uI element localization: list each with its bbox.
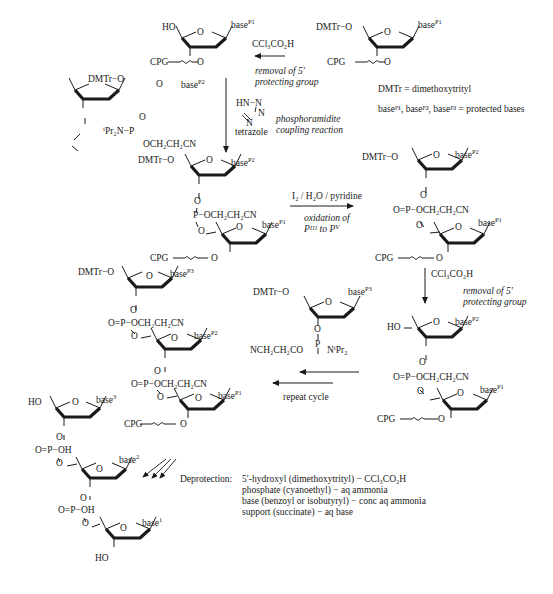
step3-reagent: I₂ / H₂O / pyridine <box>292 191 362 202</box>
label-cpg: CPG <box>150 57 168 68</box>
label-o: O <box>438 414 445 425</box>
label-base-p2: baseP2 <box>231 158 255 169</box>
label-o: O <box>198 226 205 237</box>
label-base-p1: baseP1 <box>418 20 442 31</box>
label-base-p2: baseP2 <box>455 317 479 328</box>
label-o: O <box>130 305 137 316</box>
label-base-p1: baseP1 <box>480 385 504 396</box>
label-o-eq-p-oh: O=P−OH <box>35 445 72 456</box>
label-o: O <box>419 357 426 368</box>
label-cpg: CPG <box>327 57 345 68</box>
label-ho: HO <box>28 397 42 408</box>
label-base-2: base2 <box>119 455 139 466</box>
step5-label: repeat cycle <box>283 392 329 403</box>
legend-bases: baseᴾ¹, baseᴾ², baseᴾ³ = protected bases <box>378 104 525 115</box>
label-base-p3: baseP3 <box>348 287 372 298</box>
label-o: O <box>197 57 204 68</box>
label-cpg: CPG <box>377 414 395 425</box>
step2-activator-name: tetrazole <box>235 127 268 138</box>
label-ho: HO <box>162 22 176 33</box>
ring-oxygen: O <box>433 150 440 161</box>
ring-oxygen: O <box>206 155 213 166</box>
label-o: O <box>56 432 63 443</box>
step4-description-line1: removal of 5′ <box>463 286 513 297</box>
legend-dmtr: DMTr = dimethoxytrityl <box>378 84 471 95</box>
label-base-3: base3 <box>96 395 116 406</box>
step1-reagent: CCl₃CO₂H <box>252 39 294 50</box>
label-dmtr-o: DMTr−O <box>78 267 114 278</box>
label-o: O <box>139 112 146 123</box>
ring-oxygen: O <box>455 222 462 233</box>
ring-oxygen: O <box>96 464 103 475</box>
ring-oxygen: O <box>325 297 332 308</box>
label-cpg: CPG <box>124 419 142 430</box>
label-base-p1: baseP1 <box>478 218 502 229</box>
label-o: O <box>80 493 87 504</box>
label-o-eq-p-cyanoethyl: O=P−OCH₂CH₂CN <box>393 372 469 383</box>
label-ncch2ch2co: NCH₂CH₂CO <box>250 345 303 356</box>
label-o: O <box>417 386 424 397</box>
label-base-p1: baseP1 <box>231 20 255 31</box>
step2-description-line1: phosphoramidite <box>276 114 340 125</box>
label-dmtr-o: DMTr−O <box>253 287 289 298</box>
label-ho: HO <box>387 322 401 333</box>
deprotection-line: phosphate (cyanoethyl) − aq ammonia <box>242 485 426 496</box>
ring-oxygen: O <box>72 397 79 408</box>
step2-description-line2: coupling reaction <box>276 125 343 136</box>
step1-description-line1: removal of 5′ <box>255 66 305 77</box>
step4-reagent: CCl₃CO₂H <box>431 269 473 280</box>
label-base-p3: baseP3 <box>170 269 194 280</box>
label-o: O <box>314 324 321 335</box>
label-o: O <box>157 392 164 403</box>
ring-oxygen: O <box>120 523 127 534</box>
deprotection-list: 5′-hydroxyl (dimethoxytrityl) − CCl₃CO₂H… <box>242 474 426 518</box>
label-o: O <box>82 518 89 529</box>
label-o: O <box>131 331 138 342</box>
label-o: O <box>416 220 423 231</box>
label-p-cyanoethyl: P−OCH₂CH₂CN <box>193 210 257 221</box>
label-o-eq-p-cyanoethyl: O=P−OCH₂CH₂CN <box>393 205 469 216</box>
ring-oxygen: O <box>236 222 243 233</box>
label-dmtr-o: DMTr−O <box>88 74 124 85</box>
label-base-p1: baseP1 <box>262 220 286 231</box>
label-cyanoethyl: OCH₂CH₂CN <box>143 139 196 150</box>
ring-oxygen: O <box>197 27 204 38</box>
label-o: O <box>180 419 187 430</box>
ring-oxygen: O <box>146 271 153 282</box>
label-base-1: base1 <box>142 518 162 529</box>
label-o: O <box>384 57 391 68</box>
label-o: O <box>56 458 63 469</box>
label-base-p2: baseP2 <box>181 80 205 91</box>
label-o: O <box>420 190 427 201</box>
ring-top-right <box>363 26 419 56</box>
step3-description-line2: Pᴵᴵᴵ to Pⱽ <box>304 224 340 235</box>
step3-description-line1: oxidation of <box>304 213 350 224</box>
ring-top-left <box>176 26 232 56</box>
label-o: O <box>194 196 201 207</box>
step4-description-line2: protecting group <box>463 297 526 308</box>
label-cpg: CPG <box>150 253 168 264</box>
tetrazole-n: N <box>258 108 265 119</box>
label-dmtr-o: DMTr−O <box>138 155 174 166</box>
ring-oxygen: O <box>171 333 178 344</box>
deprotection-heading: Deprotection: <box>180 474 232 485</box>
label-base-p1: baseP1 <box>218 391 242 402</box>
label-o-eq-p-cyanoethyl: O=P−OCH₂CH₂CN <box>108 318 184 329</box>
label-ho: HO <box>95 553 109 564</box>
label-o: O <box>211 253 218 264</box>
label-ipr2n-p: ⁱPr₂N−P <box>103 126 134 137</box>
ring-oxygen: O <box>433 317 440 328</box>
label-dmtr-o: DMTr−O <box>316 22 352 33</box>
label-o: O <box>154 366 161 377</box>
ring-oxygen: O <box>195 393 202 404</box>
deprotection-line: base (benzoyl or isobutyryl) − conc aq a… <box>242 496 426 507</box>
deprotection-line: 5′-hydroxyl (dimethoxytrityl) − CCl₃CO₂H <box>242 474 426 485</box>
label-dmtr-o: DMTr−O <box>362 152 398 163</box>
ring-oxygen: O <box>384 27 391 38</box>
ring-amidite-p3 <box>304 296 360 326</box>
label-o-eq-p-cyanoethyl: O=P−OCH₂CH₂CN <box>131 379 207 390</box>
step1-description-line2: protecting group <box>255 77 318 88</box>
label-p: P <box>315 339 320 350</box>
deprotection-line: support (succinate) − aq base <box>242 507 426 518</box>
label-o-eq-p-oh: O=P−OH <box>58 505 95 516</box>
